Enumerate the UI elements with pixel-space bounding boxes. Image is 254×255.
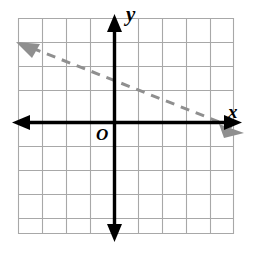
dashed-line-arrow-left bbox=[16, 42, 40, 58]
y-axis bbox=[107, 14, 122, 242]
coordinate-plane-figure: y x O bbox=[0, 0, 254, 255]
origin-label: O bbox=[96, 126, 108, 143]
x-axis-arrow-left bbox=[12, 115, 30, 130]
grid-vertical-lines bbox=[19, 18, 234, 234]
y-axis-arrow-up bbox=[107, 14, 122, 32]
grid-horizontal-lines bbox=[18, 19, 234, 234]
x-axis bbox=[12, 115, 242, 130]
coordinate-plane-canvas bbox=[0, 0, 254, 255]
x-axis-label: x bbox=[228, 102, 238, 121]
y-axis-label: y bbox=[126, 4, 135, 25]
